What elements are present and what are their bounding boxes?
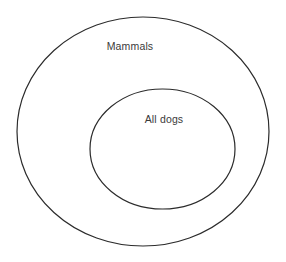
inner-set-ellipse [90,89,235,209]
inner-set-label: All dogs [145,113,184,125]
euler-diagram-canvas: Mammals All dogs [0,0,286,262]
outer-set-label: Mammals [107,40,154,52]
